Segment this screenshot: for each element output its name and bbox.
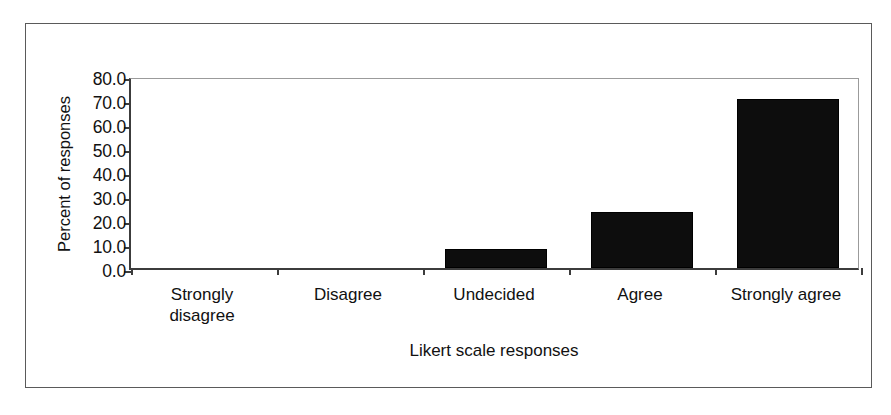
bar [591,212,693,268]
x-axis-category-label: Stronglydisagree [129,284,275,326]
bar [737,99,839,268]
x-axis-category-label-line: Strongly agree [713,284,859,305]
x-axis-tick-mark [715,268,717,275]
bar [445,249,547,268]
x-axis-category-label: Undecided [421,284,567,305]
x-axis-category-label: Agree [567,284,713,305]
y-axis-tick-label: 40.0 [93,165,126,186]
x-axis-category-label-line: disagree [129,305,275,326]
y-axis-title: Percent of responses [53,78,75,270]
x-axis-tick-mark [569,268,571,275]
x-axis-category-label-line: Disagree [275,284,421,305]
x-axis-category-label: Strongly agree [713,284,859,305]
y-axis-tick-label: 70.0 [93,93,126,114]
y-axis-tick-label: 60.0 [93,117,126,138]
x-axis-tick-mark [861,268,863,275]
x-axis-tick-mark [423,268,425,275]
figure-frame: Percent of responses 0.010.020.030.040.0… [25,23,872,388]
y-axis-tick-label: 50.0 [93,141,126,162]
y-axis-tick-label: 80.0 [93,69,126,90]
plot-area: 0.010.020.030.040.050.060.070.080.0 [129,78,859,270]
y-axis-tick-label: 30.0 [93,189,126,210]
y-axis-tick-label: 0.0 [102,261,126,282]
x-axis-tick-mark [131,268,133,275]
x-axis-category-label-line: Agree [567,284,713,305]
y-axis-tick-label: 20.0 [93,213,126,234]
x-axis-tick-mark [277,268,279,275]
figure-container: Percent of responses 0.010.020.030.040.0… [0,0,891,415]
y-axis-tick-label: 10.0 [93,237,126,258]
x-axis-title: Likert scale responses [129,341,859,361]
x-axis-category-label-line: Undecided [421,284,567,305]
x-axis-category-label-line: Strongly [129,284,275,305]
x-axis-category-label: Disagree [275,284,421,305]
